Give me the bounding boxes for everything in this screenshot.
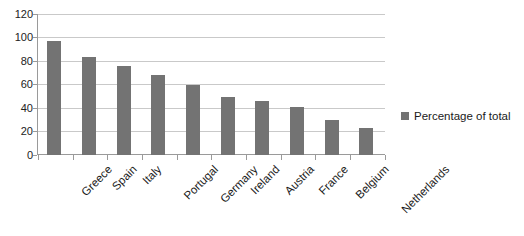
legend-swatch-icon (401, 112, 409, 120)
x-label-spain: Spain (110, 163, 139, 192)
legend: Percentage of total (401, 110, 511, 122)
x-label-austria: Austria (282, 163, 316, 197)
x-label-portugal: Portugal (182, 163, 221, 202)
x-label-italy: Italy (140, 163, 163, 186)
x-label-greece: Greece (79, 163, 114, 198)
x-label-netherlands: Netherlands (399, 163, 451, 215)
x-label-france: France (316, 163, 350, 197)
legend-label-percentage-of-total: Percentage of total (414, 110, 511, 122)
bar-chart: 120 100 80 60 40 20 0 (0, 0, 524, 236)
x-label-belgium: Belgium (353, 163, 391, 201)
